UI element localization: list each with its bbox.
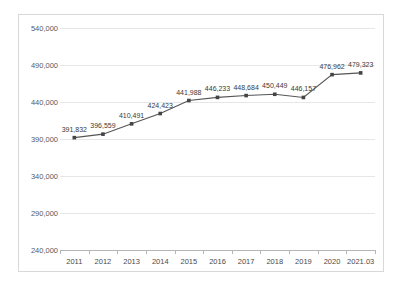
series-polyline: [74, 73, 360, 138]
data-point-marker: [216, 96, 220, 100]
data-point-marker: [187, 99, 191, 103]
data-point-marker: [158, 112, 162, 116]
data-point-marker: [330, 73, 334, 77]
data-point-label: 479,323: [348, 61, 373, 68]
data-point-label: 391,832: [62, 126, 87, 133]
data-point-marker: [130, 122, 134, 126]
data-point-label: 450,449: [262, 82, 287, 89]
data-point-marker: [273, 92, 277, 96]
data-point-label: 441,988: [176, 89, 201, 96]
data-point-label: 446,233: [205, 85, 230, 92]
data-point-marker: [244, 94, 248, 98]
data-point-marker: [101, 132, 105, 136]
data-point-label: 448,684: [233, 84, 258, 91]
data-point-marker: [359, 71, 363, 75]
series-line: [0, 0, 404, 293]
data-point-label: 410,491: [119, 112, 144, 119]
data-point-marker: [73, 136, 77, 140]
data-point-label: 476,962: [319, 63, 344, 70]
data-point-label: 396,559: [90, 122, 115, 129]
line-chart: 240,000290,000340,000390,000440,000490,0…: [0, 0, 404, 293]
data-point-marker: [302, 96, 306, 100]
data-point-label: 424,423: [148, 102, 173, 109]
data-point-label: 446,157: [291, 85, 316, 92]
